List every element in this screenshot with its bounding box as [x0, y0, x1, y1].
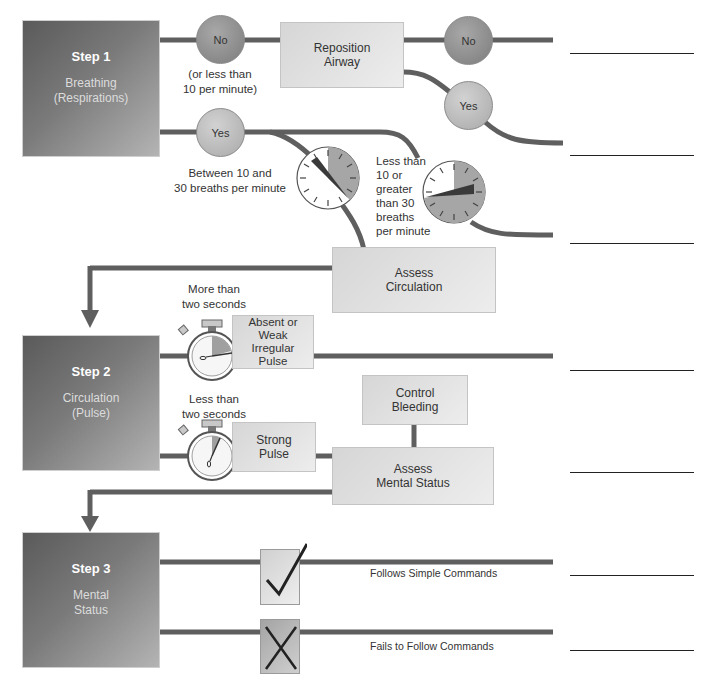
assess-mental-line2: Mental Status	[376, 476, 449, 490]
reposition-line1: Reposition	[314, 41, 371, 55]
no-note-line2: 10 per minute)	[180, 82, 260, 97]
step-1-yes-text: Yes	[212, 127, 230, 139]
step-2-subtitle-line1: Circulation	[23, 391, 159, 406]
abnormal-rate-line: per minute	[376, 224, 436, 238]
abnormal-rate-line: greater	[376, 182, 436, 196]
step-2-title: Step 2	[23, 364, 159, 379]
absent-pulse-line: Pulse	[248, 355, 297, 368]
step-2-box: Step 2 Circulation (Pulse)	[22, 335, 160, 471]
slow-refill-line1: More than	[178, 282, 250, 297]
reposition-line2: Airway	[314, 55, 371, 69]
abnormal-rate-line: than 30	[376, 196, 436, 210]
step-2-subtitle-line2: (Pulse)	[23, 406, 159, 421]
step-3-subtitle: Mental Status	[23, 588, 159, 618]
control-bleeding-line2: Bleeding	[392, 400, 439, 414]
answer-blank-line[interactable]	[570, 650, 694, 651]
fails-commands-label: Fails to Follow Commands	[370, 640, 494, 652]
assess-circulation-line1: Assess	[386, 266, 443, 280]
control-bleeding-box: Control Bleeding	[362, 375, 468, 425]
reposition-no-text: No	[461, 35, 475, 47]
respiration-gauge-normal-icon	[297, 147, 359, 209]
step-3-subtitle-line1: Mental	[23, 588, 159, 603]
stopwatch-icon	[178, 420, 236, 480]
answer-blank-line[interactable]	[570, 53, 694, 54]
fails-commands-box	[260, 619, 300, 674]
step-3-title: Step 3	[23, 561, 159, 576]
no-note-line1: (or less than	[180, 67, 260, 82]
step-1-no-text: No	[213, 34, 227, 46]
abnormal-rate-label: Less than 10 or greater than 30 breaths …	[376, 154, 436, 238]
assess-mental-line1: Assess	[376, 462, 449, 476]
step-1-no-circle: No	[196, 15, 245, 64]
fast-refill-line2: two seconds	[178, 407, 250, 422]
fast-refill-line1: Less than	[178, 392, 250, 407]
fast-refill-label: Less than two seconds	[178, 392, 250, 422]
arrow-down-icon	[81, 516, 99, 532]
checkmark-icon	[259, 540, 307, 602]
step-1-title: Step 1	[23, 49, 159, 64]
absent-pulse-line: Irregular	[248, 342, 297, 355]
abnormal-rate-line: Less than	[376, 154, 436, 168]
step-2-subtitle: Circulation (Pulse)	[23, 391, 159, 421]
step-3-box: Step 3 Mental Status	[22, 532, 160, 668]
reposition-airway-box: Reposition Airway	[280, 22, 404, 88]
normal-rate-line2: 30 breaths per minute	[168, 181, 292, 196]
absent-weak-pulse-box: Absent or Weak Irregular Pulse	[232, 315, 314, 369]
step-1-subtitle-line1: Breathing	[23, 76, 159, 91]
answer-blank-line[interactable]	[570, 155, 694, 156]
answer-blank-line[interactable]	[570, 370, 694, 371]
normal-rate-line1: Between 10 and	[168, 166, 292, 181]
answer-blank-line[interactable]	[570, 243, 694, 244]
follows-commands-box	[260, 549, 300, 605]
stopwatch-icon	[178, 320, 236, 380]
absent-pulse-line: Weak	[248, 329, 297, 342]
absent-pulse-line: Absent or	[248, 316, 297, 329]
step-1-subtitle: Breathing (Respirations)	[23, 76, 159, 106]
slow-refill-label: More than two seconds	[178, 282, 250, 312]
reposition-no-circle: No	[444, 16, 493, 65]
step-3-subtitle-line2: Status	[23, 603, 159, 618]
answer-blank-line[interactable]	[570, 472, 694, 473]
control-bleeding-line1: Control	[392, 386, 439, 400]
slow-refill-line2: two seconds	[178, 297, 250, 312]
reposition-yes-circle: Yes	[444, 81, 493, 130]
abnormal-rate-line: 10 or	[376, 168, 436, 182]
answer-blank-line[interactable]	[570, 575, 694, 576]
reposition-yes-text: Yes	[460, 100, 478, 112]
x-mark-icon	[261, 620, 301, 675]
step-1-box: Step 1 Breathing (Respirations)	[22, 20, 160, 157]
step-1-subtitle-line2: (Respirations)	[23, 91, 159, 106]
step-1-yes-circle: Yes	[196, 108, 245, 157]
assess-circulation-box: Assess Circulation	[332, 247, 496, 313]
abnormal-rate-line: breaths	[376, 210, 436, 224]
strong-pulse-box: Strong Pulse	[232, 422, 316, 472]
arrow-down-icon	[81, 310, 99, 328]
step-1-no-note: (or less than 10 per minute)	[180, 67, 260, 97]
normal-rate-label: Between 10 and 30 breaths per minute	[168, 166, 292, 196]
assess-circulation-line2: Circulation	[386, 280, 443, 294]
strong-pulse-line2: Pulse	[256, 447, 291, 461]
assess-mental-status-box: Assess Mental Status	[332, 447, 494, 505]
strong-pulse-line1: Strong	[256, 433, 291, 447]
follows-commands-label: Follows Simple Commands	[370, 567, 497, 579]
